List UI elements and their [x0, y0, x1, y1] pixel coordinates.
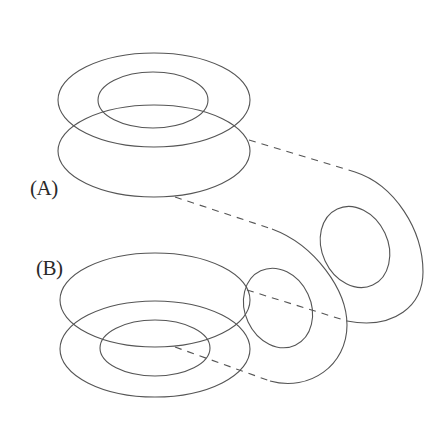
- lower-tube-outer-arc: [270, 229, 347, 383]
- label-b: (B): [36, 258, 63, 279]
- upper-tube-outer-arc: [347, 172, 423, 323]
- b-top-outer-ellipse: [60, 253, 250, 347]
- upper-tube-inner-ellipse: [307, 195, 402, 299]
- torus-diagram: (A) (B): [0, 0, 447, 421]
- a-top-inner-ellipse: [98, 72, 208, 128]
- upper-tube-dashed-bottom: [247, 290, 347, 321]
- lower-tube-inner-ellipse: [231, 257, 325, 359]
- lower-tube-dashed-top: [175, 197, 272, 229]
- a-bottom-outer-ellipse: [58, 105, 250, 197]
- a-top-outer-ellipse: [58, 53, 250, 147]
- b-inner-ellipse: [100, 320, 210, 376]
- label-a: (A): [30, 178, 58, 199]
- diagram-canvas: [0, 0, 447, 421]
- b-bottom-outer-ellipse: [60, 301, 250, 397]
- upper-tube-dashed-top: [249, 140, 355, 172]
- lower-tube-dashed-bottom: [175, 347, 270, 381]
